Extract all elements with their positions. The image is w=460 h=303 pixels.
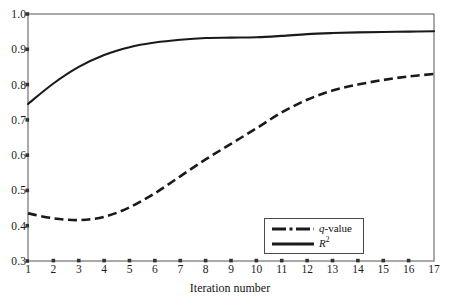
y-tick-mark — [26, 189, 30, 193]
y-tick-label: 0.5 — [0, 184, 26, 196]
x-tick-label: 11 — [270, 263, 294, 276]
plot-frame — [28, 14, 434, 261]
x-tick-mark — [178, 259, 182, 263]
y-tick-label: 0.4 — [0, 220, 26, 232]
y-tick-label: 0.7 — [0, 114, 26, 126]
x-tick-mark — [102, 259, 106, 263]
y-tick-label: 1.0 — [0, 8, 26, 20]
chart-figure: 0.30.40.50.60.70.80.91.0 123456789101112… — [0, 0, 460, 303]
x-tick-label: 8 — [194, 263, 218, 276]
legend-swatch-dash-dot-icon — [271, 222, 315, 236]
y-tick-mark — [26, 47, 30, 51]
y-tick-mark — [26, 83, 30, 87]
x-tick-label: 12 — [295, 263, 319, 276]
x-tick-mark — [255, 259, 259, 263]
x-tick-label: 1 — [16, 263, 40, 276]
x-tick-label: 10 — [244, 263, 268, 276]
x-tick-mark — [128, 259, 132, 263]
x-axis-title: Iteration number — [0, 281, 460, 295]
x-tick-mark — [381, 259, 385, 263]
x-tick-label: 15 — [371, 263, 395, 276]
x-tick-mark — [280, 259, 284, 263]
x-tick-label: 14 — [346, 263, 370, 276]
x-tick-label: 6 — [143, 263, 167, 276]
y-tick-mark — [26, 153, 30, 157]
y-tick-label: 0.8 — [0, 79, 26, 91]
x-tick-mark — [52, 259, 56, 263]
y-tick-mark — [26, 12, 30, 16]
x-tick-mark — [77, 259, 81, 263]
y-axis-tick-labels: 0.30.40.50.60.70.80.91.0 — [0, 0, 26, 303]
x-tick-label: 5 — [118, 263, 142, 276]
x-tick-mark — [204, 259, 208, 263]
x-tick-label: 17 — [422, 263, 446, 276]
legend-item-q-value: q-value — [271, 222, 361, 236]
x-tick-marks — [52, 259, 411, 263]
legend-label-q-value: q-value — [319, 221, 352, 236]
legend-item-r2: R2 — [271, 237, 361, 251]
x-tick-label: 7 — [168, 263, 192, 276]
y-tick-label: 0.9 — [0, 43, 26, 55]
x-tick-label: 3 — [67, 263, 91, 276]
legend-label-r2: R2 — [319, 236, 329, 251]
x-tick-label: 4 — [92, 263, 116, 276]
x-tick-label: 13 — [321, 263, 345, 276]
x-tick-mark — [153, 259, 157, 263]
x-tick-mark — [229, 259, 233, 263]
y-tick-label: 0.6 — [0, 149, 26, 161]
line-chart-canvas — [0, 0, 460, 303]
x-tick-mark — [331, 259, 335, 263]
chart-legend: q-value R2 — [264, 218, 364, 254]
y-tick-mark — [26, 224, 30, 228]
x-tick-label: 2 — [41, 263, 65, 276]
x-tick-label: 9 — [219, 263, 243, 276]
x-tick-label: 16 — [397, 263, 421, 276]
y-tick-mark — [26, 118, 30, 122]
legend-swatch-solid-icon — [271, 237, 315, 251]
x-tick-mark — [305, 259, 309, 263]
x-tick-mark — [356, 259, 360, 263]
x-tick-mark — [407, 259, 411, 263]
